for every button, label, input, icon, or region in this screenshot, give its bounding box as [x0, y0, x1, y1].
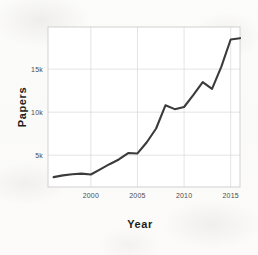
- x-axis-tick-labels: 2000200520102015: [83, 192, 239, 199]
- x-tick-label-3: 2015: [222, 192, 238, 199]
- y-tick-label-1: 10k: [31, 109, 43, 116]
- x-axis-title: Year: [127, 218, 153, 230]
- y-tick-label-2: 15k: [31, 66, 43, 73]
- plot-area-background: [48, 27, 240, 187]
- y-axis-title: Papers: [16, 87, 28, 127]
- x-tick-label-1: 2005: [129, 192, 145, 199]
- chart-canvas: 5k10k15k 2000200520102015 Papers Year: [0, 0, 258, 255]
- y-axis-tick-labels: 5k10k15k: [31, 66, 43, 159]
- y-tick-label-0: 5k: [35, 152, 43, 159]
- line-chart-figure: 5k10k15k 2000200520102015 Papers Year: [0, 0, 258, 255]
- x-tick-label-0: 2000: [83, 192, 99, 199]
- x-tick-label-2: 2010: [176, 192, 192, 199]
